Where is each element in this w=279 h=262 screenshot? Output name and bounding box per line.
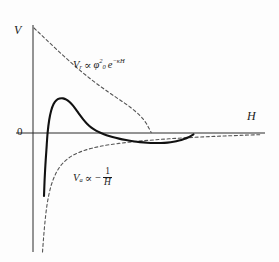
plot-canvas bbox=[0, 0, 279, 262]
fraction-denominator: H bbox=[103, 178, 112, 188]
repulsive-label-phi-subscript: 0 bbox=[102, 64, 105, 71]
fraction-numerator: 1 bbox=[104, 167, 111, 177]
attractive-label-proportional-icon: ∝ bbox=[85, 173, 92, 184]
repulsive-curve-label: Vr∝φ20e−κH bbox=[73, 60, 125, 71]
repulsive-label-var-subscript: r bbox=[79, 64, 82, 71]
x-axis-label: H bbox=[247, 110, 256, 122]
potential-energy-diagram: V H 0 Vr∝φ20e−κH Va∝− 1 H bbox=[0, 0, 279, 262]
attractive-label-fraction: 1 H bbox=[103, 167, 112, 188]
curve-total-potential bbox=[44, 98, 194, 196]
repulsive-label-exponent: −κH bbox=[112, 58, 124, 65]
curve-repulsive-exponential bbox=[34, 28, 151, 133]
attractive-curve-label: Va∝− 1 H bbox=[73, 168, 112, 189]
origin-label: 0 bbox=[17, 126, 23, 137]
curve-attractive-van-der-waals bbox=[43, 135, 263, 252]
curves-group bbox=[34, 28, 262, 252]
axes-group bbox=[16, 25, 265, 252]
repulsive-label-proportional-icon: ∝ bbox=[84, 60, 91, 71]
y-axis-label: V bbox=[14, 24, 21, 36]
attractive-label-minus-sign: − bbox=[95, 173, 101, 184]
attractive-label-var-subscript: a bbox=[79, 177, 82, 184]
